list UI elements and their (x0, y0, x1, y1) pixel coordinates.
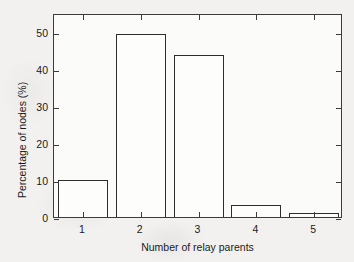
y-tick-0 (54, 219, 59, 220)
y-tick-10-right (336, 182, 341, 183)
x-tick-2 (141, 212, 142, 217)
y-tick-0-right (336, 219, 341, 220)
figure-canvas: Percentage of nodes (%) 01020304050 1234… (0, 0, 354, 262)
y-tick-30-right (336, 108, 341, 109)
plot-area (53, 14, 342, 218)
x-tick-3-top (199, 15, 200, 20)
x-axis-title: Number of relay parents (53, 241, 342, 253)
y-tick-label-0: 0 (8, 213, 48, 224)
bar-3 (174, 55, 224, 217)
y-tick-label-10: 10 (8, 176, 48, 187)
y-tick-50 (54, 34, 59, 35)
x-tick-label-3: 3 (183, 224, 213, 235)
x-tick-1-top (83, 15, 84, 20)
x-tick-3 (199, 212, 200, 217)
y-tick-label-20: 20 (8, 139, 48, 150)
bar-2 (116, 34, 166, 217)
y-tick-20 (54, 145, 59, 146)
y-tick-10 (54, 182, 59, 183)
y-tick-40 (54, 71, 59, 72)
x-tick-1 (83, 212, 84, 217)
x-tick-label-4: 4 (240, 224, 270, 235)
y-tick-label-30: 30 (8, 102, 48, 113)
y-tick-label-40: 40 (8, 65, 48, 76)
x-tick-4-top (256, 15, 257, 20)
x-tick-label-1: 1 (67, 224, 97, 235)
x-tick-5-top (314, 15, 315, 20)
x-tick-label-5: 5 (298, 224, 328, 235)
y-tick-20-right (336, 145, 341, 146)
x-tick-label-2: 2 (125, 224, 155, 235)
y-tick-50-right (336, 34, 341, 35)
x-tick-4 (256, 212, 257, 217)
y-tick-30 (54, 108, 59, 109)
x-tick-5 (314, 212, 315, 217)
y-tick-label-50: 50 (8, 28, 48, 39)
y-tick-40-right (336, 71, 341, 72)
x-tick-2-top (141, 15, 142, 20)
